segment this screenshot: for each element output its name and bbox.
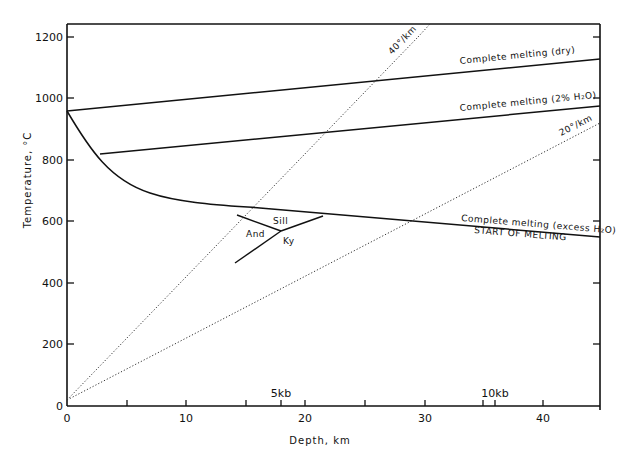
svg-text:400: 400 [42,277,63,290]
svg-text:10: 10 [179,412,193,425]
y-axis-tick-labels: 0 200 400 600 800 1000 1200 [35,31,63,413]
melting-curves [67,59,600,237]
x-axis-tick-labels: 0 10 20 30 40 [64,412,551,425]
pressure-label-10kb: 10kb [481,387,508,400]
svg-text:1200: 1200 [35,31,63,44]
svg-text:0: 0 [64,412,71,425]
svg-text:800: 800 [42,154,63,167]
svg-text:1000: 1000 [35,92,63,105]
x-axis-label: Depth, km [289,435,350,446]
label-2pct: Complete melting (2% H₂O) [459,90,597,113]
svg-text:30: 30 [418,412,432,425]
label-40-per-km: 40°/km [386,24,418,57]
geotherm-40 [67,37,418,400]
svg-text:20: 20 [298,412,312,425]
pressure-label-5kb: 5kb [271,387,291,400]
y-axis-ticks [67,37,600,344]
label-ky: Ky [283,236,295,246]
label-20-per-km: 20°/km [557,113,594,138]
phase-diagram: 0 200 400 600 800 1000 1200 0 10 20 30 4… [0,0,619,468]
label-sill: Sill [273,216,288,226]
x-axis-ticks [127,400,543,406]
curve-2pct-h2o [100,106,600,154]
svg-text:200: 200 [42,338,63,351]
svg-text:0: 0 [56,400,63,413]
geotherm-20 [67,123,600,400]
y-axis-label: Temperature, °C [22,132,33,230]
label-and: And [246,229,265,239]
geotherm-lines [67,24,600,400]
svg-text:40: 40 [536,412,550,425]
svg-text:600: 600 [42,215,63,228]
